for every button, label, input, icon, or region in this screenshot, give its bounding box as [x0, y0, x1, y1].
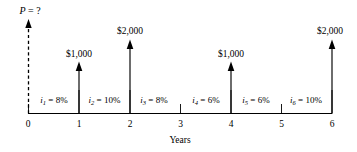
interest-rate-label-segment-1: i1 = 8% [40, 95, 68, 106]
x-tick-label-3: 3 [178, 119, 183, 129]
interest-eq-3: = [146, 95, 156, 105]
interest-value-1: 8% [56, 95, 69, 105]
cash-flow-arrowhead-year-2 [127, 40, 134, 50]
present-value-label: P = ? [18, 5, 41, 16]
x-tick-label-1: 1 [77, 119, 82, 129]
interest-eq-6: = [296, 95, 306, 105]
cash-flow-arrow-year-6 [329, 40, 336, 114]
present-value-arrowhead [25, 19, 31, 28]
present-value-equals: = ? [26, 5, 42, 16]
interest-eq-4: = [198, 95, 208, 105]
cash-flow-svg: P = ? $1,000 $2,000 $1,000 $2,000 i1 = 8… [0, 0, 357, 152]
cash-flow-arrowhead-year-1 [76, 62, 83, 72]
interest-rate-label-segment-3: i3 = 8% [140, 95, 168, 106]
interest-eq-2: = [94, 95, 104, 105]
interest-eq-5: = [248, 95, 258, 105]
x-tick-label-2: 2 [128, 119, 133, 129]
x-tick-label-5: 5 [279, 119, 284, 129]
interest-value-4: 6% [208, 95, 221, 105]
interest-rate-label-segment-5: i5 = 6% [242, 95, 270, 106]
x-tick-label-4: 4 [229, 119, 234, 129]
cash-flow-label-year-6: $2,000 [317, 26, 343, 36]
cash-flow-arrow-year-4 [228, 62, 235, 114]
interest-value-6: 10% [305, 95, 322, 105]
cash-flow-label-year-4: $1,000 [218, 49, 244, 59]
interest-value-3: 8% [156, 95, 169, 105]
x-tick-label-0: 0 [26, 119, 31, 129]
cash-flow-diagram: P = ? $1,000 $2,000 $1,000 $2,000 i1 = 8… [0, 0, 357, 152]
present-value-symbol: P [18, 5, 25, 16]
cash-flow-arrow-year-1 [76, 62, 83, 114]
x-axis-title: Years [169, 135, 191, 145]
interest-value-2: 10% [104, 95, 121, 105]
cash-flow-label-year-1: $1,000 [66, 49, 92, 59]
cash-flow-arrowhead-year-4 [228, 62, 235, 72]
interest-rate-label-segment-4: i4 = 6% [192, 95, 220, 106]
interest-rate-label-segment-2: i2 = 10% [89, 95, 121, 106]
present-value-arrow-group [25, 19, 31, 114]
cash-flow-arrowhead-year-6 [329, 40, 336, 50]
cash-flow-arrow-year-2 [127, 40, 134, 114]
x-tick-label-6: 6 [330, 119, 335, 129]
cash-flow-label-year-2: $2,000 [117, 26, 143, 36]
interest-value-5: 6% [258, 95, 271, 105]
interest-eq-1: = [46, 95, 56, 105]
interest-rate-label-segment-6: i6 = 10% [290, 95, 322, 106]
